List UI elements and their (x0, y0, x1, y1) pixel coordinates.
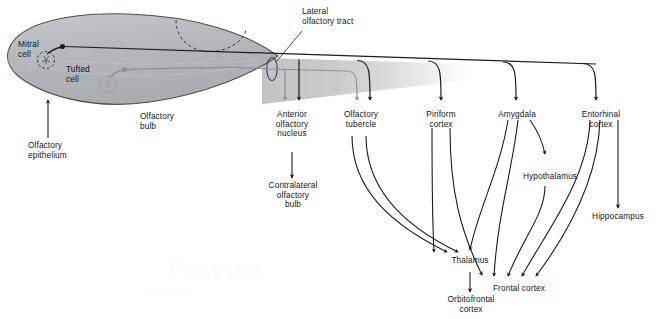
label-olfactory-epithelium: Olfactory epithelium (28, 141, 67, 160)
label-frontal-cortex: Frontal cortex (493, 284, 545, 294)
piriform-to-frontal (450, 128, 482, 275)
amygdala-to-hypothalamus (530, 120, 545, 154)
label-tufted-cell: Tufted cell (66, 65, 90, 84)
label-contralateral-olfactory-bulb: Contralateral olfactory bulb (269, 181, 318, 210)
label-mitral-cell: Mitral cell (18, 40, 39, 59)
label-piriform-cortex: Piriform cortex (426, 110, 455, 129)
label-amygdala: Amygdala (498, 110, 536, 120)
branch-entorhinal (583, 64, 596, 101)
piriform-to-thalamus (432, 128, 434, 252)
label-thalamus: Thalamus (451, 256, 488, 266)
entorhinal-to-frontal-1 (522, 120, 590, 276)
olfactory-pathway-svg (0, 0, 656, 319)
entorhinal-to-frontal-2 (536, 120, 600, 276)
mitral-soma (60, 44, 65, 49)
label-lateral-olfactory-tract: Lateral olfactory tract (302, 7, 353, 26)
label-entorhinal-cortex: Entorhinal cortex (582, 110, 620, 129)
diagram-canvas: Pearson Education (0, 0, 656, 319)
tubercle-to-thalamus-2 (366, 136, 458, 252)
label-anterior-olfactory-nucleus: Anterior olfactory nucleus (276, 110, 308, 139)
lateral-olfactory-tract-leader (276, 31, 302, 62)
hypothalamus-to-frontal (508, 186, 545, 276)
label-olfactory-tubercle: Olfactory tubercle (344, 110, 378, 129)
label-orbitofrontal-cortex: Orbitofrontal cortex (448, 295, 495, 314)
amygdala-to-frontal-1 (494, 120, 518, 276)
olfactory-bulb-shape (7, 14, 278, 105)
label-hypothalamus: Hypothalamus (523, 172, 577, 182)
label-olfactory-bulb: Olfactory bulb (140, 112, 174, 131)
amygdala-to-thalamus-1 (470, 120, 508, 250)
branch-amygdala (503, 62, 516, 100)
label-hippocampus: Hippocampus (592, 212, 644, 222)
